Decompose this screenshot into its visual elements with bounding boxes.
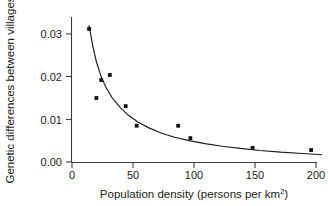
data-point bbox=[108, 73, 112, 77]
x-tick-label-100: 100 bbox=[185, 169, 203, 181]
y-tick-label-0.00: 0.00 bbox=[41, 156, 62, 168]
x-tick-label-150: 150 bbox=[246, 169, 264, 181]
data-point bbox=[124, 104, 128, 108]
data-point bbox=[309, 148, 313, 152]
data-point bbox=[251, 146, 255, 150]
y-tick-label-0.02: 0.02 bbox=[41, 71, 62, 83]
y-axis-title: Genetic differences between villages bbox=[4, 0, 16, 184]
data-point bbox=[176, 124, 180, 128]
x-axis-title-base: Population density (persons per km bbox=[100, 188, 280, 200]
data-point bbox=[99, 78, 103, 82]
x-axis-ticks bbox=[72, 163, 316, 169]
data-points-layer bbox=[87, 27, 313, 152]
data-point bbox=[87, 27, 91, 31]
chart-figure: 0.03 0.02 0.01 0.00 0 50 100 150 200 Pop… bbox=[0, 0, 328, 206]
x-tick-label-0: 0 bbox=[69, 169, 75, 181]
x-axis-title: Population density (persons per km2) bbox=[100, 187, 288, 200]
data-point bbox=[95, 96, 99, 100]
x-tick-label-200: 200 bbox=[307, 169, 325, 181]
fitted-curve bbox=[89, 25, 322, 154]
y-tick-label-0.01: 0.01 bbox=[41, 114, 62, 126]
data-point bbox=[135, 124, 139, 128]
scatter-plot: 0.03 0.02 0.01 0.00 0 50 100 150 200 Pop… bbox=[0, 0, 328, 206]
x-tick-label-50: 50 bbox=[127, 169, 139, 181]
y-axis-ticks bbox=[66, 34, 72, 162]
data-point bbox=[188, 136, 192, 140]
y-tick-label-0.03: 0.03 bbox=[41, 28, 62, 40]
x-axis-title-tail: ) bbox=[284, 188, 288, 200]
